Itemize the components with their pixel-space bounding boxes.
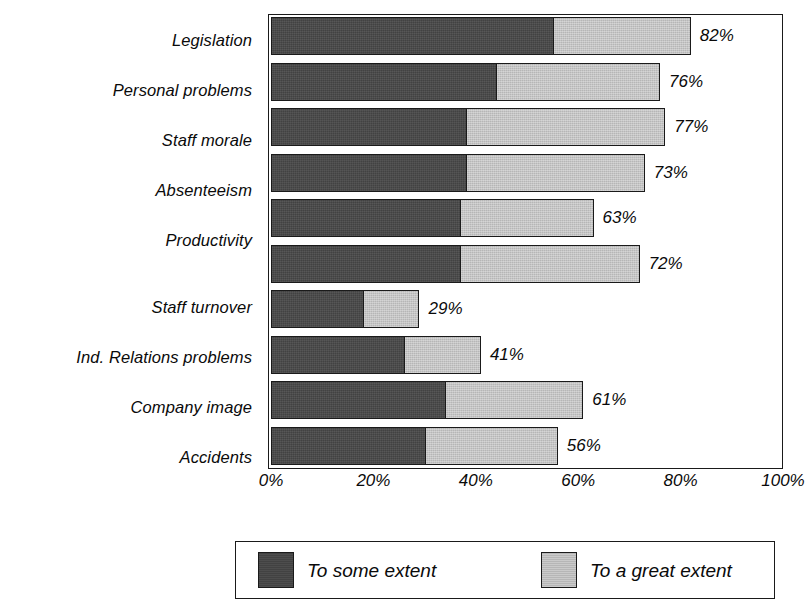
- bar-segment-to-some-extent: [271, 63, 496, 101]
- bar-segment-to-a-great-extent: [404, 336, 481, 374]
- bar-segment-to-a-great-extent: [460, 199, 593, 237]
- bar-total-label: 76%: [669, 73, 703, 90]
- category-label-personal-problems: Personal problems: [0, 82, 252, 99]
- category-label-accidents: Accidents: [0, 449, 252, 466]
- bar-row: 61%: [271, 381, 783, 419]
- bar-total-label: 29%: [428, 300, 462, 317]
- bar-total-label: 72%: [649, 255, 683, 272]
- category-label-staff-turnover: Staff turnover: [0, 299, 252, 316]
- bar-segment-to-a-great-extent: [496, 63, 660, 101]
- category-axis-labels: Legislation Personal problems Staff mora…: [0, 14, 258, 466]
- bar-row: 73%: [271, 154, 783, 192]
- bar-row: 29%: [271, 290, 783, 328]
- bar-segment-to-a-great-extent: [460, 245, 639, 283]
- bar-total-label: 63%: [603, 209, 637, 226]
- bar-segment-to-some-extent: [271, 336, 404, 374]
- bar-row: 82%: [271, 17, 783, 55]
- legend-label-to-a-great-extent: To a great extent: [590, 561, 732, 580]
- bar-total-label: 82%: [700, 27, 734, 44]
- bar-row: 56%: [271, 427, 783, 465]
- x-tick-label: 60%: [561, 472, 595, 489]
- bar-segment-to-a-great-extent: [363, 290, 419, 328]
- bar-row: 63%: [271, 199, 783, 237]
- bar-total-label: 41%: [490, 346, 524, 363]
- legend: To some extent To a great extent: [235, 541, 775, 599]
- legend-item-to-a-great-extent[interactable]: To a great extent: [541, 552, 732, 588]
- bar-segment-to-some-extent: [271, 381, 445, 419]
- bar-row: 41%: [271, 336, 783, 374]
- bar-segment-to-some-extent: [271, 199, 460, 237]
- bar-segment-to-a-great-extent: [466, 108, 666, 146]
- legend-label-to-some-extent: To some extent: [307, 561, 436, 580]
- bar-segment-to-a-great-extent: [425, 427, 558, 465]
- bar-segment-to-a-great-extent: [553, 17, 691, 55]
- bar-total-label: 73%: [654, 164, 688, 181]
- x-tick-label: 100%: [761, 472, 804, 489]
- bar-total-label: 61%: [592, 391, 626, 408]
- bar-segment-to-some-extent: [271, 290, 363, 328]
- bar-segment-to-some-extent: [271, 154, 466, 192]
- bar-segment-to-some-extent: [271, 108, 466, 146]
- bar-segment-to-some-extent: [271, 17, 553, 55]
- category-label-ind-relations: Ind. Relations problems: [0, 349, 252, 366]
- stacked-bar-chart: Legislation Personal problems Staff mora…: [0, 0, 812, 616]
- legend-swatch-dark-icon: [258, 552, 294, 588]
- bar-segment-to-some-extent: [271, 427, 425, 465]
- x-axis: 0%20%40%60%80%100%: [271, 470, 783, 500]
- category-label-legislation: Legislation: [0, 32, 252, 49]
- x-tick-label: 0%: [259, 472, 284, 489]
- bar-row: 72%: [271, 245, 783, 283]
- bar-segment-to-a-great-extent: [445, 381, 583, 419]
- bar-row: 76%: [271, 63, 783, 101]
- category-label-productivity: Productivity: [0, 232, 252, 249]
- bar-total-label: 56%: [567, 437, 601, 454]
- bars-layer: 82%76%77%73%63%72%29%41%61%56%: [271, 14, 783, 469]
- category-label-absenteeism: Absenteeism: [0, 182, 252, 199]
- legend-swatch-light-icon: [541, 552, 577, 588]
- category-label-company-image: Company image: [0, 399, 252, 416]
- bar-total-label: 77%: [674, 118, 708, 135]
- x-tick-label: 80%: [664, 472, 698, 489]
- legend-item-to-some-extent[interactable]: To some extent: [258, 552, 436, 588]
- x-tick-label: 20%: [356, 472, 390, 489]
- bar-segment-to-a-great-extent: [466, 154, 645, 192]
- bar-segment-to-some-extent: [271, 245, 460, 283]
- x-tick-label: 40%: [459, 472, 493, 489]
- bar-row: 77%: [271, 108, 783, 146]
- category-label-staff-morale: Staff morale: [0, 132, 252, 149]
